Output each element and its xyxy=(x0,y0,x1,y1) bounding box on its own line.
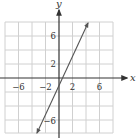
y-tick-label: 6 xyxy=(51,31,56,41)
coordinate-plane-chart: x y −6 −2 2 6 6 2 −6 xyxy=(0,0,139,138)
x-tick-label: 2 xyxy=(70,82,75,92)
x-tick-label: −2 xyxy=(39,82,52,92)
x-tick-label: −6 xyxy=(12,82,25,92)
y-tick-label: −6 xyxy=(43,116,56,126)
y-axis-label: y xyxy=(55,0,62,9)
x-axis-label: x xyxy=(130,72,136,83)
x-tick-label: 6 xyxy=(97,82,102,92)
y-tick-label: 2 xyxy=(51,59,56,69)
